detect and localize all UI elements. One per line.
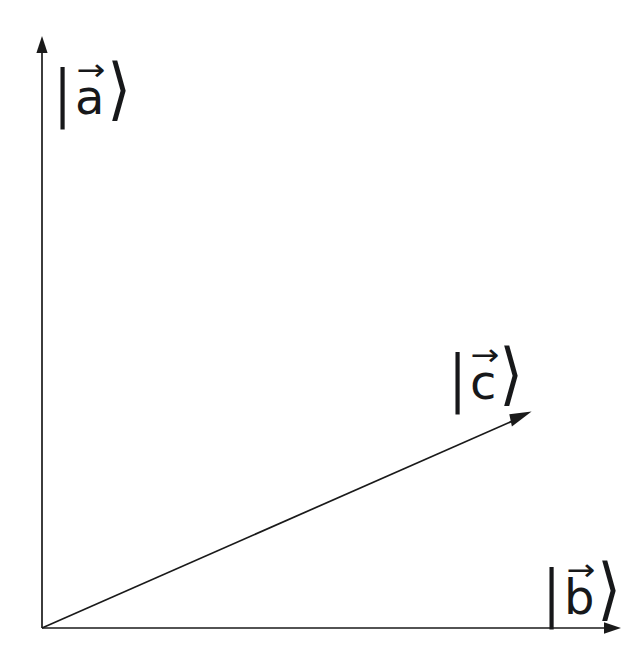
label-ket-c: | → c ⟩ <box>447 343 525 406</box>
vector-c-shaft <box>42 419 518 628</box>
ket-c-bar: | <box>449 349 466 406</box>
ket-c-bracket: ⟩ <box>500 343 524 406</box>
ket-c-vector-stack: → c <box>470 347 496 406</box>
ket-b-bracket: ⟩ <box>598 558 622 621</box>
label-ket-a: | → a ⟩ <box>52 58 133 121</box>
vertical-axis <box>36 36 47 628</box>
ket-c-inner: | → c ⟩ <box>447 343 525 406</box>
vector-c <box>42 411 532 628</box>
ket-b-vector-stack: → b <box>564 562 594 621</box>
label-ket-b: | → b ⟩ <box>541 558 623 621</box>
ket-a-bracket: ⟩ <box>108 58 132 121</box>
ket-a-bar: | <box>54 64 71 121</box>
ket-b-inner: | → b ⟩ <box>541 558 623 621</box>
vector-diagram-figure: Vectors | <box>0 0 639 654</box>
vector-arrow-icon: → <box>566 564 593 577</box>
horizontal-axis <box>42 622 621 634</box>
vector-arrow-icon: → <box>76 64 103 77</box>
vector-c-arrowhead <box>509 411 531 426</box>
ket-b-bar: | <box>543 564 560 621</box>
vector-arrow-icon: → <box>470 349 497 362</box>
vertical-axis-arrowhead <box>36 36 47 53</box>
ket-a-vector-stack: → a <box>75 62 104 121</box>
ket-a-inner: | → a ⟩ <box>52 58 133 121</box>
